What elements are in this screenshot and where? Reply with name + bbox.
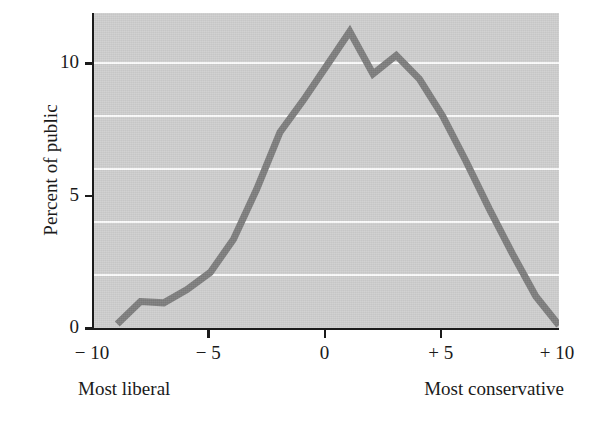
plot-area xyxy=(92,13,559,330)
x-tick-label: − 10 xyxy=(75,342,109,364)
series-polyline xyxy=(117,32,559,326)
y-tick-mark xyxy=(85,327,92,330)
y-tick-label: 10 xyxy=(39,51,79,73)
most-liberal-label: Most liberal xyxy=(78,378,170,400)
chart-figure: Percent of public 0510 − 10− 50+ 5+ 10 M… xyxy=(0,0,600,427)
line-series xyxy=(94,13,559,328)
x-tick-label: − 5 xyxy=(196,342,221,364)
x-tick-label: + 10 xyxy=(540,342,574,364)
x-tick-label: 0 xyxy=(320,342,330,364)
x-tick-mark xyxy=(324,330,327,338)
y-tick-mark xyxy=(85,195,92,198)
y-tick-mark xyxy=(85,62,92,65)
plot-background xyxy=(94,13,559,328)
y-tick-label: 5 xyxy=(39,184,79,206)
x-tick-mark xyxy=(440,330,443,338)
most-conservative-label: Most conservative xyxy=(424,378,564,400)
y-tick-label: 0 xyxy=(39,316,79,338)
x-tick-mark xyxy=(207,330,210,338)
x-tick-label: + 5 xyxy=(428,342,453,364)
